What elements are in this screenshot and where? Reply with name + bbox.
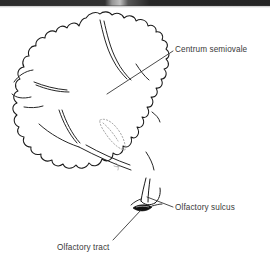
leader-centrum-semiovale	[107, 51, 173, 94]
lateral-ventricle	[100, 119, 125, 150]
label-olfactory-sulcus: Olfactory sulcus	[175, 203, 235, 212]
anatomy-figure: Centrum semiovale Olfactory sulcus Olfac…	[0, 0, 270, 263]
label-centrum-semiovale: Centrum semiovale	[175, 45, 247, 54]
brain-section-drawing	[0, 0, 270, 263]
leader-olfactory-tract	[113, 210, 141, 240]
cortex-outline	[13, 12, 169, 168]
leader-lines	[107, 51, 173, 240]
label-olfactory-tract: Olfactory tract	[57, 243, 109, 252]
leader-olfactory-sulcus	[147, 197, 173, 207]
sulcal-detail-lines	[12, 20, 160, 170]
